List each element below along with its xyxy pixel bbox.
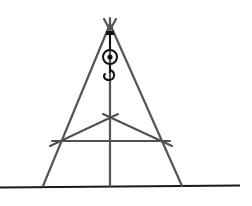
left-leg <box>43 24 110 186</box>
right-leg <box>110 24 182 186</box>
apex-tips <box>104 18 116 30</box>
ground-line <box>0 186 240 188</box>
tripod-diagram <box>0 0 252 206</box>
